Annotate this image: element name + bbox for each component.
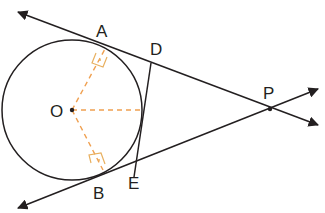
label-a: A [96,22,108,41]
label-p: P [263,84,274,103]
label-e: E [128,174,139,193]
label-b: B [93,184,104,203]
right-angle-dot-b [98,159,100,161]
label-d: D [150,40,162,59]
point-p [268,107,272,111]
radius-oa [72,49,105,110]
label-o: O [50,102,63,121]
segment-de [134,63,151,177]
point-o [70,108,74,112]
radius-ob [72,110,103,170]
right-angle-dot-a [99,59,101,61]
geometry-diagram: A D O P B E [0,0,325,213]
